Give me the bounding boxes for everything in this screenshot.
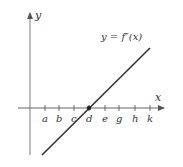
graph-canvas: a b c d e g h k y x y = f″(x)	[0, 0, 183, 167]
x-axis-label: x	[155, 91, 162, 104]
tick-label-a: a	[42, 113, 48, 124]
tick-label-h: h	[132, 113, 138, 124]
tick-label-k: k	[147, 113, 153, 124]
tick-label-e: e	[102, 113, 108, 124]
tick-label-d: d	[86, 113, 92, 124]
series-line	[42, 48, 150, 155]
x-tick-labels: a b c d e g h k	[42, 113, 153, 124]
x-intercept-point	[87, 106, 91, 110]
curve-label: y = f″(x)	[100, 31, 142, 42]
y-axis-label: y	[34, 9, 42, 22]
tick-label-b: b	[56, 113, 62, 124]
tick-label-g: g	[116, 113, 122, 124]
